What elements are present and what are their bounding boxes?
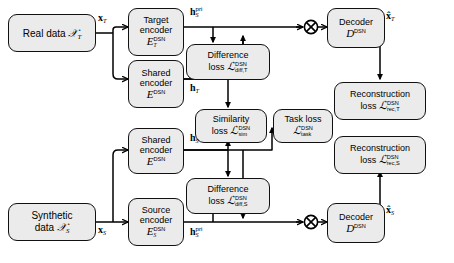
edge-label-x-target: xT: [98, 12, 106, 23]
shared-encoder-bottom-line2: encoder: [140, 145, 173, 155]
synthetic-data-subscript: S: [66, 227, 69, 234]
node-similarity-loss: Similarity loss ℒDSNsim: [195, 109, 267, 143]
decoder-bottom-symbol: DDSN: [346, 222, 366, 234]
real-data-label: Real data: [23, 28, 66, 39]
sum-operator-source: [303, 214, 319, 230]
dsn-architecture-diagram: Real data 𝒳T Target encoder EDSNT Shared…: [0, 0, 454, 263]
target-encoder-line2: encoder: [140, 25, 173, 35]
node-real-data: Real data 𝒳T: [8, 14, 96, 52]
reconstruction-loss-bottom-line2: loss ℒDSNrec,S: [360, 153, 400, 166]
difference-loss-top-line2: loss ℒDSNdiff,T: [209, 60, 248, 73]
node-decoder-source: Decoder DDSN: [327, 203, 385, 243]
decoder-bottom-line1: Decoder: [339, 212, 373, 222]
node-task-loss: Task loss ℒDSNtask: [273, 109, 333, 143]
task-loss-symbol: ℒDSNtask: [293, 124, 313, 137]
difference-loss-top-line1: Difference: [208, 50, 249, 60]
shared-encoder-top-line1: Shared: [141, 68, 170, 78]
synthetic-data-line2: data: [35, 222, 54, 233]
edge-label-xhat-source: x̂S: [386, 204, 394, 215]
reconstruction-loss-top-line2: loss ℒDSNrec,T: [360, 99, 399, 112]
shared-encoder-top-line2: encoder: [140, 78, 173, 88]
shared-encoder-top-symbol: EDSN: [147, 88, 166, 100]
source-encoder-line1: Source: [142, 205, 171, 215]
node-shared-encoder-bottom: Shared encoder EDSN: [128, 128, 184, 174]
shared-encoder-bottom-symbol: EDSN: [147, 155, 166, 167]
similarity-loss-line1: Similarity: [213, 114, 250, 124]
node-reconstruction-loss-target: Reconstruction loss ℒDSNrec,T: [334, 82, 426, 120]
similarity-loss-line2: loss ℒDSNsim: [212, 124, 250, 137]
reconstruction-loss-top-line1: Reconstruction: [350, 89, 410, 99]
source-encoder-symbol: EDSNS: [147, 225, 166, 238]
source-encoder-line2: encoder: [140, 215, 173, 225]
reconstruction-loss-bottom-line1: Reconstruction: [350, 143, 410, 153]
synthetic-data-line1: Synthetic: [31, 210, 72, 221]
edge-label-h-target: hT: [190, 82, 199, 93]
sum-operator-target: [303, 19, 319, 35]
node-shared-encoder-top: Shared encoder EDSN: [128, 60, 184, 108]
edge-label-h-source: hS: [190, 132, 199, 143]
difference-loss-bottom-line1: Difference: [208, 184, 249, 194]
edge-label-h-pri-bottom: hpriS: [190, 226, 202, 239]
target-encoder-symbol: EDSNT: [147, 35, 166, 48]
node-synthetic-data: Synthetic data 𝒳S: [8, 203, 96, 241]
edge-label-xhat-target: x̂T: [386, 10, 394, 21]
edge-label-x-source: xS: [98, 224, 106, 235]
edge-label-h-pri-top: hpriS: [190, 6, 202, 19]
shared-encoder-bottom-line1: Shared: [141, 135, 170, 145]
node-difference-loss-source: Difference loss ℒDSNdiff,S: [186, 178, 270, 214]
node-difference-loss-target: Difference loss ℒDSNdiff,T: [186, 44, 270, 80]
node-decoder-target: Decoder DDSN: [327, 8, 385, 48]
decoder-top-symbol: DDSN: [346, 27, 366, 39]
node-reconstruction-loss-source: Reconstruction loss ℒDSNrec,S: [334, 136, 426, 174]
node-source-encoder: Source encoder EDSNS: [128, 198, 184, 246]
real-data-subscript: T: [77, 33, 81, 40]
task-loss-line1: Task loss: [284, 114, 321, 124]
difference-loss-bottom-line2: loss ℒDSNdiff,S: [208, 194, 247, 207]
target-encoder-line1: Target: [143, 15, 168, 25]
node-target-encoder: Target encoder EDSNT: [128, 8, 184, 56]
decoder-top-line1: Decoder: [339, 17, 373, 27]
